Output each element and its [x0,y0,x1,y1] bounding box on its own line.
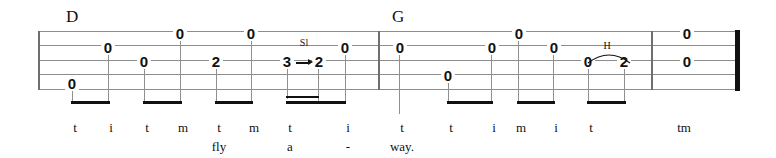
beam-group-1 [71,101,110,104]
fingering-mark: i [99,121,123,134]
hammer-on-arc-icon [586,50,632,64]
note-stem [287,66,288,99]
note-stem [180,38,181,103]
fingering-mark: i [482,121,506,134]
tab-note: 0 [338,41,352,55]
staff-line-2 [38,45,740,46]
note-stem [345,52,346,103]
lyric-syllable: way. [385,140,419,153]
beam-group-4-secondary [286,96,319,98]
fingering-mark: t [207,121,231,134]
tablature-sheet: D G 0 0 0 0 2 0 3 2 0 Sl 0 0 0 0 0 0 2 [0,0,776,158]
lyric-syllable: a [273,140,307,153]
fingering-mark: m [509,121,533,134]
fingering-mark: m [242,121,266,134]
slide-label: Sl [295,38,313,48]
beam-group-6 [447,101,493,104]
tab-note: 0 [512,27,526,41]
fingering-mark: t [63,121,87,134]
tab-note: 0 [173,27,187,41]
fingering-mark: i [336,121,360,134]
barline-measure-3 [651,31,653,90]
fingering-mark: t [439,121,463,134]
fingering-mark: t [390,121,414,134]
beam-group-8 [587,101,626,104]
lyric-syllable: fly [202,140,236,153]
slide-arrowhead-icon [308,59,313,65]
barline-middle [378,31,380,90]
fingering-mark: tm [672,121,696,134]
barline-start [38,31,40,90]
tab-note: 2 [312,55,326,69]
fingering-mark: t [278,121,302,134]
tab-note: 3 [280,55,294,69]
note-stem [588,66,589,103]
tab-note: 0 [137,55,151,69]
note-stem [553,52,554,103]
tab-note: 0 [101,41,115,55]
fingering-mark: t [135,121,159,134]
chord-symbol-d: D [66,8,78,25]
tab-note: 0 [485,41,499,55]
tab-note: 0 [680,55,694,69]
note-stem [399,52,400,114]
tab-note: 0 [680,27,694,41]
final-barline [735,30,740,91]
note-stem [144,66,145,103]
staff-line-1 [38,31,740,32]
note-stem [251,38,252,103]
fingering-mark: i [544,121,568,134]
beam-group-4-primary [286,101,346,104]
tab-note: 0 [441,69,455,83]
note-stem [491,52,492,103]
tab-note: 0 [547,41,561,55]
beam-group-7 [517,101,555,104]
fingering-mark: t [579,121,603,134]
note-stem [624,66,625,103]
fingering-mark: m [171,121,195,134]
beam-group-3 [215,101,253,104]
lyric-syllable: - [331,140,365,153]
tab-note: 2 [209,55,223,69]
chord-symbol-g: G [392,8,404,25]
tab-note: 0 [65,77,79,91]
note-stem [216,66,217,103]
tab-note: 0 [393,41,407,55]
beam-group-2 [143,101,182,104]
note-stem [108,52,109,103]
note-stem [518,38,519,103]
tab-note: 0 [244,27,258,41]
